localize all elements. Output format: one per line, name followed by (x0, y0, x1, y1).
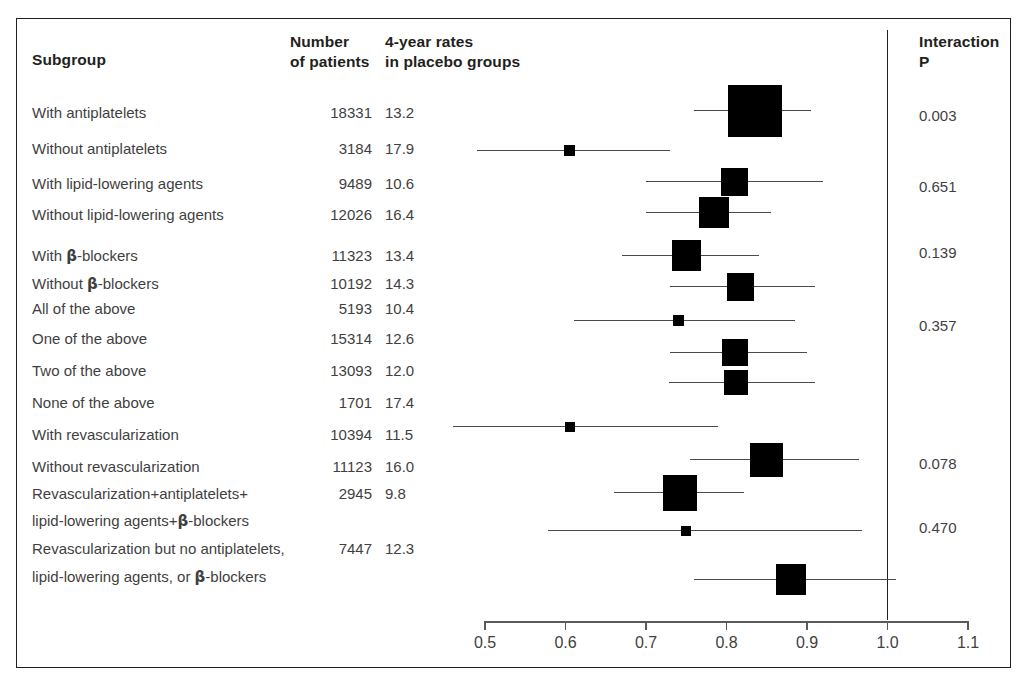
placebo-rate-value: 10.4 (385, 300, 414, 317)
interaction-p-value: 0.470 (919, 519, 957, 536)
subgroup-label: All of the above (32, 300, 135, 317)
placebo-rate-value: 14.3 (385, 275, 414, 292)
subgroup-label: Without lipid-lowering agents (32, 206, 224, 223)
number-of-patients-value: 11123 (288, 458, 372, 475)
number-of-patients-value: 10192 (288, 275, 372, 292)
interaction-p-value: 0.078 (919, 455, 957, 472)
interaction-p-value: 0.357 (919, 317, 957, 334)
subgroup-label: With β-blockers (32, 247, 138, 265)
subgroup-label: lipid-lowering agents+β-blockers (32, 512, 249, 530)
number-of-patients-value: 3184 (288, 140, 372, 157)
placebo-rate-value: 16.4 (385, 206, 414, 223)
column-header-number-of-patients: Number of patients (290, 32, 369, 72)
subgroup-label: None of the above (32, 394, 155, 411)
placebo-rate-value: 12.3 (385, 540, 414, 557)
beta-glyph: β (66, 247, 77, 265)
placebo-rate-value: 12.0 (385, 362, 414, 379)
placebo-rate-value: 11.5 (385, 426, 413, 443)
number-of-patients-value: 12026 (288, 206, 372, 223)
subgroup-label: One of the above (32, 330, 147, 347)
subgroup-label: With revascularization (32, 426, 179, 443)
interaction-p-value: 0.651 (919, 178, 957, 195)
interaction-p-value: 0.139 (919, 244, 957, 261)
placebo-rate-value: 16.0 (385, 458, 414, 475)
number-of-patients-value: 5193 (288, 300, 372, 317)
subgroup-label: Revascularization+antiplatelets+ (32, 485, 248, 502)
subgroup-label: Without revascularization (32, 458, 200, 475)
column-header-four-year-rates: 4-year rates in placebo groups (385, 32, 520, 72)
subgroup-label: Revascularization but no antiplatelets, (32, 540, 285, 557)
placebo-rate-value: 12.6 (385, 330, 414, 347)
number-of-patients-value: 7447 (288, 540, 372, 557)
placebo-rate-value: 17.9 (385, 140, 414, 157)
subgroup-label: Without β-blockers (32, 275, 159, 293)
beta-glyph: β (178, 512, 189, 530)
subgroup-label: With lipid-lowering agents (32, 175, 203, 192)
number-of-patients-value: 15314 (288, 330, 372, 347)
placebo-rate-value: 17.4 (385, 394, 414, 411)
subgroup-label: Two of the above (32, 362, 146, 379)
interaction-p-value: 0.003 (919, 107, 957, 124)
number-of-patients-value: 13093 (288, 362, 372, 379)
subgroup-label: Without antiplatelets (32, 140, 167, 157)
number-of-patients-value: 2945 (288, 485, 372, 502)
subgroup-label: With antiplatelets (32, 104, 146, 121)
number-of-patients-value: 10394 (288, 426, 372, 443)
subgroup-label: lipid-lowering agents, or β-blockers (32, 568, 266, 586)
placebo-rate-value: 9.8 (385, 485, 406, 502)
beta-glyph: β (87, 275, 98, 293)
number-of-patients-value: 18331 (288, 104, 372, 121)
forest-plot-figure: Subgroup Number of patients 4-year rates… (0, 0, 1029, 697)
number-of-patients-value: 11323 (288, 247, 372, 264)
column-header-interaction-p: Interaction P (919, 32, 999, 72)
placebo-rate-value: 13.2 (385, 104, 414, 121)
placebo-rate-value: 13.4 (385, 247, 414, 264)
number-of-patients-value: 1701 (288, 394, 372, 411)
number-of-patients-value: 9489 (288, 175, 372, 192)
beta-glyph: β (195, 568, 206, 586)
column-header-subgroup: Subgroup (32, 50, 106, 70)
placebo-rate-value: 10.6 (385, 175, 414, 192)
